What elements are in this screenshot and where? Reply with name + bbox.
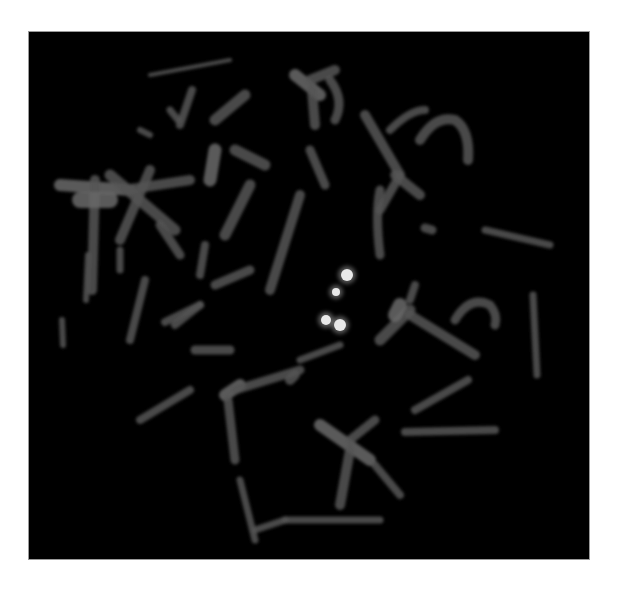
- chromosome: [200, 245, 205, 275]
- chromosome: [86, 255, 88, 300]
- chromosome: [378, 190, 381, 255]
- chromosome: [210, 150, 215, 180]
- fish-signal: [334, 319, 346, 331]
- chromosome: [533, 295, 537, 375]
- chromosome-spread-image: [29, 32, 589, 559]
- chromosome: [312, 90, 315, 125]
- chromosome: [62, 320, 63, 345]
- chromosome: [425, 228, 432, 230]
- micrograph-panel: [29, 32, 589, 559]
- chromosome: [410, 285, 415, 300]
- chromosome: [395, 305, 400, 315]
- fish-signal: [332, 288, 340, 296]
- fish-signal: [321, 315, 331, 325]
- chromosome: [405, 430, 495, 432]
- fish-signal: [341, 269, 353, 281]
- chromosome: [290, 375, 295, 380]
